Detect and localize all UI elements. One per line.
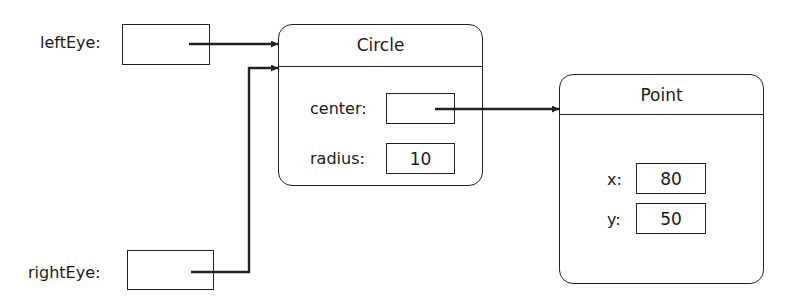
- point-y-label: y:: [607, 211, 621, 229]
- circle-center-cell: [386, 93, 455, 124]
- right-eye-label: rightEye:: [28, 264, 100, 282]
- left-eye-label: leftEye:: [40, 34, 101, 52]
- right-eye-reference-cell: [127, 250, 214, 290]
- circle-radius-cell: 10: [386, 143, 455, 174]
- point-x-label: x:: [607, 171, 622, 189]
- point-title: Point: [560, 75, 763, 115]
- circle-center-label: center:: [310, 100, 367, 118]
- point-x-cell: 80: [636, 163, 706, 194]
- circle-radius-label: radius:: [310, 150, 365, 168]
- right-eye-arrow: [191, 68, 278, 272]
- left-eye-reference-cell: [122, 24, 210, 65]
- point-y-cell: 50: [636, 203, 706, 234]
- circle-title: Circle: [279, 25, 482, 67]
